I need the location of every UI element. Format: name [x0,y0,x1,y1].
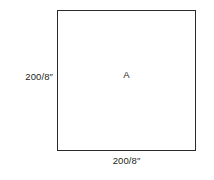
geometry-figure-canvas: A 200/8″ 200/8″ [0,0,214,180]
square-interior-label: A [57,69,196,80]
bottom-dimension-label: 200/8″ [57,155,196,167]
square-shape [57,10,196,151]
left-dimension-label: 200/8″ [0,71,53,83]
